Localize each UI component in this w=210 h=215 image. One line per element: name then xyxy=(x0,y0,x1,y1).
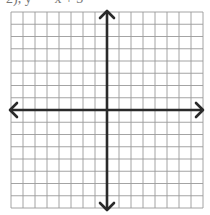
coordinate-grid xyxy=(0,0,210,215)
